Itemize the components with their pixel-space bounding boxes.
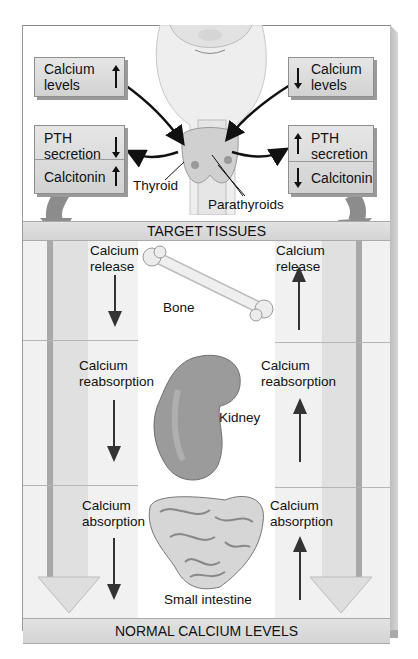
effect-label: absorption <box>270 514 333 530</box>
effect-label: Calcium <box>276 243 325 259</box>
effect-label: Calcium <box>270 498 333 514</box>
right-calcium-levels-box: Calcium levels <box>288 57 374 97</box>
small-intestine-label: Small intestine <box>164 592 252 607</box>
thyroid-label: Thyroid <box>133 178 178 193</box>
arrow-up-icon <box>299 400 301 462</box>
big-down-arrow-right-icon <box>308 575 374 615</box>
arrow-down-icon <box>297 68 299 84</box>
box-label: Calcium <box>44 61 95 77</box>
right-effect-intestine: Calcium absorption <box>270 498 333 530</box>
right-hormone-box: PTH secretion Calcitonin <box>288 125 374 194</box>
divider <box>23 485 138 486</box>
arrow-up-icon <box>298 268 300 330</box>
left-calcium-levels-box: Calcium levels <box>34 57 125 97</box>
divider <box>275 487 390 488</box>
effect-label: Calcium <box>79 358 154 374</box>
effect-label: release <box>90 259 139 275</box>
box-label: secretion <box>311 146 368 162</box>
left-hormone-box: PTH secretion Calcitonin <box>34 125 125 194</box>
parathyroids-label: Parathyroids <box>208 197 284 212</box>
left-effect-bone: Calcium release <box>90 243 139 275</box>
normal-calcium-levels-bar: NORMAL CALCIUM LEVELS <box>23 618 390 644</box>
left-channel-edge <box>47 240 53 580</box>
box-label: Calcitonin <box>311 170 372 186</box>
effect-label: Calcium <box>90 243 139 259</box>
right-channel-edge <box>356 240 362 580</box>
big-down-arrow-left-icon <box>36 575 102 615</box>
bone-illustration <box>140 245 280 325</box>
left-effect-intestine: Calcium absorption <box>82 498 145 530</box>
arrow-down-icon <box>114 275 116 325</box>
arrow-down-icon <box>113 538 115 598</box>
effect-label: absorption <box>82 514 145 530</box>
arrow-down-icon <box>115 137 117 153</box>
effect-label: Calcium <box>82 498 145 514</box>
arrow-up-icon <box>115 171 117 186</box>
effect-label: reabsorption <box>79 374 154 390</box>
kidney-label: Kidney <box>219 410 260 425</box>
divider <box>275 342 390 343</box>
box-label: Calcium <box>311 61 362 77</box>
effect-label: Calcium <box>261 358 336 374</box>
effect-label: reabsorption <box>261 374 336 390</box>
arrow-up-icon <box>115 70 117 88</box>
arrow-down-icon <box>113 400 115 460</box>
target-tissues-bar: TARGET TISSUES <box>23 221 390 241</box>
left-effect-kidney: Calcium reabsorption <box>79 358 154 390</box>
arrow-down-icon <box>297 168 299 183</box>
box-separator <box>289 161 373 162</box>
arrow-up-icon <box>297 138 299 154</box>
box-label: levels <box>44 77 80 93</box>
box-label: PTH <box>44 130 72 146</box>
box-label: PTH <box>311 130 339 146</box>
box-label: Calcitonin <box>44 169 105 185</box>
right-effect-kidney: Calcium reabsorption <box>261 358 336 390</box>
bone-label: Bone <box>163 300 195 315</box>
small-intestine-illustration <box>145 492 270 592</box>
box-separator <box>35 159 124 160</box>
box-label: levels <box>311 77 347 93</box>
divider <box>23 340 138 341</box>
arrow-up-icon <box>299 538 301 600</box>
